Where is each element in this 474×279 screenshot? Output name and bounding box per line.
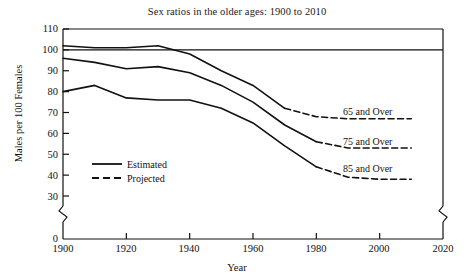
legend-swatches <box>92 164 122 178</box>
data-series <box>63 46 411 180</box>
series-85-and-over-projected <box>316 167 411 180</box>
axis-ticks <box>63 29 380 239</box>
series-65-and-over-projected <box>285 108 412 119</box>
plot-frame <box>59 29 447 239</box>
plot-canvas <box>0 0 474 279</box>
series-85-and-over-estimated <box>63 85 316 166</box>
series-65-and-over-estimated <box>63 46 285 109</box>
y-axis-break-left <box>59 206 67 222</box>
y-axis-break-right <box>439 206 447 222</box>
series-75-and-over-projected <box>316 142 411 148</box>
chart-figure: Sex ratios in the older ages: 1900 to 20… <box>0 0 474 279</box>
